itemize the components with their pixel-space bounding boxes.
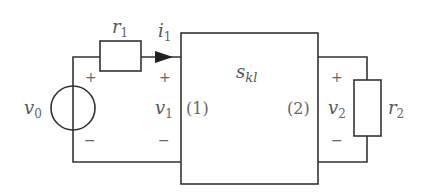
v1-label: v1 <box>155 97 173 121</box>
source-plus: + <box>85 69 97 85</box>
port2-id: (2) <box>287 99 310 118</box>
i1-label: i1 <box>158 20 171 44</box>
v2-label: v2 <box>328 97 346 121</box>
network-label: skl <box>236 61 257 85</box>
v0-label: v0 <box>24 97 42 121</box>
r2-label: r2 <box>388 97 404 121</box>
circuit-diagram: r1 i1 v0 + − + v1 − (1) skl (2) + v2 − r… <box>0 0 429 196</box>
port1-minus: − <box>158 132 170 148</box>
resistor-r1-icon <box>100 41 141 71</box>
r1-label: r1 <box>112 16 128 40</box>
resistor-r2-icon <box>354 80 381 136</box>
port1-id: (1) <box>186 99 209 118</box>
port2-plus: + <box>331 69 343 85</box>
port2-minus: − <box>331 132 343 148</box>
port1-plus: + <box>159 69 171 85</box>
current-arrow-icon <box>155 51 173 63</box>
source-minus: − <box>84 132 96 148</box>
